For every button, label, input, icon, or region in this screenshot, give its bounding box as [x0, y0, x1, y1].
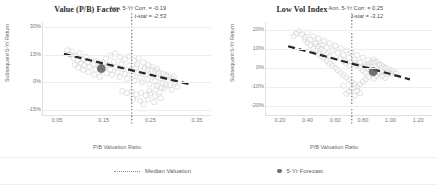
gridline [43, 110, 211, 111]
scatter-point [310, 34, 315, 39]
correlation-text: Ann. 5-Yr Corr. = -0.19 [80, 4, 166, 12]
legend: Median Valuation 5-Yr Forecast [0, 157, 437, 185]
tstat-value: t-stat = -3.12 [351, 13, 383, 19]
x-axis-tick: 1.00 [385, 118, 396, 124]
scatter-point [341, 53, 346, 58]
scatter-point [92, 72, 97, 77]
y-axis-tick: 0% [33, 79, 41, 85]
y-axis-tick: -10% [251, 84, 264, 90]
scatter-point [86, 70, 91, 75]
y-axis-label: Subsequent 5-Yr Return [229, 8, 235, 98]
stats-annotation: Ann. 5-Yr Corr. = -0.19 t-stat = -2.53 [80, 4, 166, 20]
gridline [266, 49, 432, 50]
tstat-text: t-stat = -3.12 [297, 12, 383, 20]
correlation-text: Ann. 5-Yr Corr. = 0.25 [297, 4, 383, 12]
scatter-point [152, 94, 157, 99]
x-axis-tick: 0.80 [357, 118, 368, 124]
scatter-point [169, 87, 174, 92]
chart-panel-value-factor: Value (P/B) Factor Subsequent 5-Yr Retur… [0, 0, 218, 152]
gridline [43, 55, 211, 56]
gridline [266, 68, 432, 69]
x-axis-tick: 0.15 [98, 118, 109, 124]
scatter-point [158, 96, 163, 101]
scatter-point [111, 59, 116, 64]
x-axis-tick: 0.35 [192, 118, 203, 124]
scatter-point [316, 36, 321, 41]
scatter-point [76, 65, 81, 70]
chart-panel-low-vol-index: Low Vol Index Subsequent 5-Yr Return 20%… [219, 0, 437, 152]
x-axis-tick: 0.60 [330, 118, 341, 124]
x-axis-tick: 0.40 [302, 118, 313, 124]
forecast-marker [369, 67, 378, 76]
scatter-point [126, 63, 131, 68]
scatter-point [346, 55, 351, 60]
scatter-point [119, 61, 124, 66]
y-axis-tick: -15% [28, 107, 41, 113]
scatter-point [352, 93, 357, 98]
scatter-point [72, 62, 77, 67]
y-axis-tick: 0% [256, 65, 264, 71]
scatter-point [123, 71, 128, 76]
scatter-point [145, 97, 150, 102]
y-axis-tick: 30% [30, 25, 41, 31]
figure-container: Value (P/B) Factor Subsequent 5-Yr Retur… [0, 0, 437, 189]
legend-label: Median Valuation [145, 168, 191, 174]
forecast-marker [97, 64, 106, 73]
y-axis-tick: 15% [30, 52, 41, 58]
scatter-point [305, 30, 310, 35]
gridline [43, 27, 211, 28]
gridline [266, 30, 432, 31]
scatter-point [97, 74, 102, 79]
x-axis-label: P/B Valuation Ratio [225, 144, 437, 150]
y-axis-tick: 20% [253, 27, 264, 33]
legend-item-median-valuation: Median Valuation [114, 168, 191, 174]
scatter-point [322, 38, 327, 43]
plot-svg [43, 22, 211, 115]
x-axis-label: P/B Valuation Ratio [8, 144, 226, 150]
gridline [266, 87, 432, 88]
y-axis-tick: -20% [251, 103, 264, 109]
scatter-point [136, 56, 141, 61]
scatter-point [360, 55, 365, 60]
y-axis-tick: 10% [253, 46, 264, 52]
legend-item-five-year-forecast: 5-Yr Forecast [277, 168, 323, 174]
scatter-point [117, 74, 122, 79]
x-axis-tick: 0.20 [274, 118, 285, 124]
scatter-point [137, 75, 142, 80]
plot-area: 30%15%0%-15%0.050.150.250.35 [42, 22, 211, 116]
scatter-point [87, 64, 92, 69]
legend-label: 5-Yr Forecast [287, 168, 323, 174]
scatter-point [124, 76, 129, 81]
tstat-value: t-stat = -2.53 [134, 13, 166, 19]
x-axis-tick: 0.05 [52, 118, 63, 124]
scatter-point [327, 41, 332, 46]
scatter-point [355, 53, 360, 58]
x-axis-tick: 0.25 [145, 118, 156, 124]
filled-circle-icon [277, 169, 282, 174]
scatter-point [333, 43, 338, 48]
scatter-point [141, 102, 146, 107]
scatter-point [115, 70, 120, 75]
gridline [266, 106, 432, 107]
plot-area: 20%10%0%-10%-20%0.200.400.600.801.001.20 [265, 22, 432, 116]
dotted-line-icon [114, 171, 140, 172]
scatter-point [151, 100, 156, 105]
gridline [43, 82, 211, 83]
scatter-point [122, 57, 127, 62]
tstat-text: t-stat = -2.53 [80, 12, 166, 20]
scatter-point [153, 87, 158, 92]
x-axis-tick: 1.20 [413, 118, 424, 124]
y-axis-label: Subsequent 5-Yr Return [4, 8, 10, 98]
stats-annotation: Ann. 5-Yr Corr. = 0.25 t-stat = -3.12 [297, 4, 383, 20]
scatter-point [130, 73, 135, 78]
scatter-point [175, 84, 180, 89]
scatter-point [109, 72, 114, 77]
scatter-point [108, 67, 113, 72]
scatter-point [308, 37, 313, 42]
